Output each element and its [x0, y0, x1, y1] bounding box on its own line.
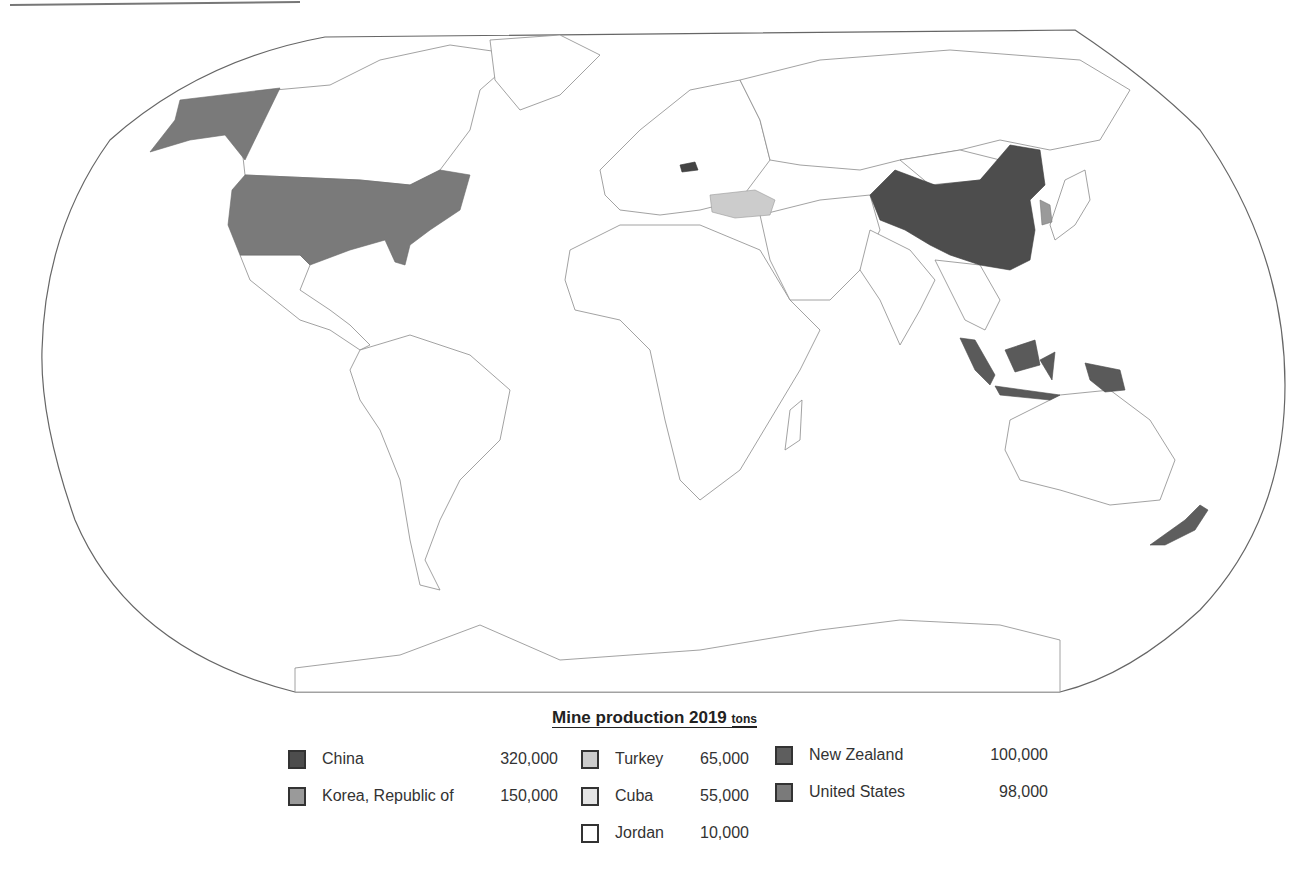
legend-entry-jordan: Jordan 10,000	[581, 820, 749, 846]
legend-swatch-cuba	[581, 787, 599, 806]
legend-title: Mine production 2019 tons	[0, 708, 1309, 728]
legend-swatch-jordan	[581, 824, 599, 843]
legend-entry-united-states: United States 98,000	[775, 779, 1048, 805]
legend-swatch-turkey	[581, 750, 599, 769]
legend-swatch-united-states	[775, 783, 793, 802]
legend-entry-turkey: Turkey 65,000	[581, 746, 749, 772]
legend-swatch-new-zealand	[775, 746, 793, 765]
world-map	[0, 0, 1309, 700]
legend-entry-cuba: Cuba 55,000	[581, 783, 749, 809]
legend-entry-china: China 320,000	[288, 746, 558, 772]
legend-entry-new-zealand: New Zealand 100,000	[775, 742, 1048, 768]
legend-entry-korea: Korea, Republic of 150,000	[288, 783, 558, 809]
legend-swatch-korea	[288, 787, 306, 806]
map-legend: Mine production 2019 tons China 320,000 …	[0, 700, 1309, 874]
legend-swatch-china	[288, 750, 306, 769]
